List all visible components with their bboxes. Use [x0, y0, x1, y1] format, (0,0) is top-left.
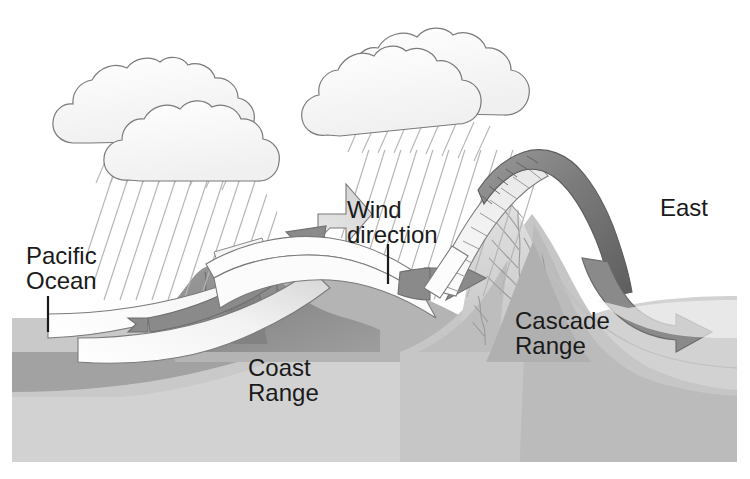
diagram-canvas: Pacific Ocean Wind direction Coast Range…: [0, 0, 750, 479]
label-east: East: [660, 195, 708, 220]
label-cascade-range: Cascade Range: [515, 308, 610, 358]
label-coast-range: Coast Range: [248, 355, 319, 405]
valley-arrow-body: [398, 268, 430, 300]
label-pacific-ocean: Pacific Ocean: [26, 243, 97, 293]
label-wind-direction: Wind direction: [347, 197, 438, 247]
